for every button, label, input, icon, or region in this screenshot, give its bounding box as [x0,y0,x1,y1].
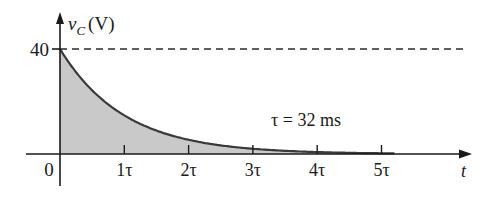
x-axis-label: t [461,161,467,181]
y-axis-label: vC(V) [68,13,115,38]
y-level-label: 40 [30,39,49,60]
shaded-area [60,49,394,154]
x-tick-label: 5τ [373,160,389,180]
x-tick-label: 4τ [309,160,325,180]
rc-discharge-diagram: vC(V) 40 0 1τ2τ3τ4τ5τ t τ = 32 ms [0,0,489,207]
tau-annotation: τ = 32 ms [271,110,341,130]
x-tick-label: 2τ [180,160,196,180]
y-axis-arrow-icon [56,12,64,24]
x-tick-label: 1τ [116,160,132,180]
x-tick-label: 3τ [245,160,261,180]
x-tick-labels: 1τ2τ3τ4τ5τ [116,160,389,180]
x-axis-arrow-icon [459,150,472,159]
origin-label: 0 [44,159,54,180]
